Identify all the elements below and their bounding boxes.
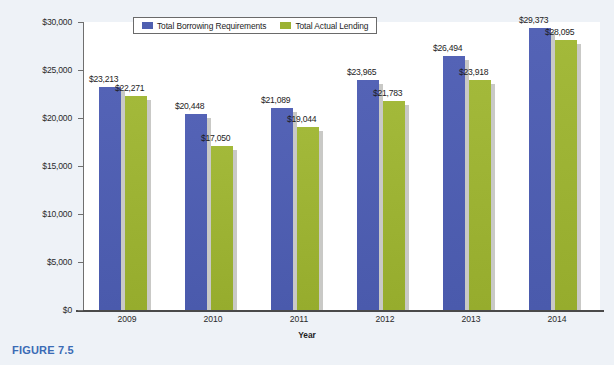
x-tick-label-2012: 2012: [350, 314, 420, 324]
bar-fill: [297, 127, 319, 310]
y-tick-label: $30,000: [12, 17, 72, 27]
y-tick-mark: [78, 22, 83, 23]
x-tick-label-2011: 2011: [264, 314, 334, 324]
bar-2009-borrowing: [99, 87, 125, 310]
y-tick-label: $20,000: [12, 113, 72, 123]
value-label-2012-lending: $21,783: [373, 88, 402, 98]
bar-fill: [99, 87, 121, 310]
legend-item-lending: Total Actual Lending: [280, 21, 368, 31]
bar-2012-borrowing: [357, 80, 383, 310]
value-label-2013-borrowing: $26,494: [433, 43, 462, 53]
legend-label: Total Actual Lending: [295, 21, 368, 31]
bar-2013-borrowing: [443, 56, 469, 310]
bar-2013-lending: [469, 80, 495, 310]
bar-shadow: [405, 105, 409, 310]
x-axis-title: Year: [0, 330, 614, 340]
bar-shadow: [147, 100, 151, 310]
bar-2010-lending: [211, 146, 237, 310]
x-tick-label-2014: 2014: [522, 314, 592, 324]
chart-legend: Total Borrowing RequirementsTotal Actual…: [133, 17, 377, 34]
y-tick-mark: [78, 214, 83, 215]
y-tick-mark: [78, 310, 83, 311]
value-label-2011-lending: $19,044: [287, 114, 316, 124]
value-label-2014-borrowing: $29,373: [519, 15, 548, 25]
value-label-2009-borrowing: $23,213: [89, 74, 118, 84]
figure-caption: FIGURE 7.5: [12, 344, 74, 356]
y-tick-label: $5,000: [12, 257, 72, 267]
bar-shadow: [491, 84, 495, 310]
value-label-2012-borrowing: $23,965: [347, 67, 376, 77]
legend-swatch-icon: [142, 22, 153, 29]
y-tick-label: $15,000: [12, 161, 72, 171]
value-label-2014-lending: $28,095: [545, 27, 574, 37]
legend-item-borrowing: Total Borrowing Requirements: [142, 21, 266, 31]
bar-2012-lending: [383, 101, 409, 310]
x-tick-label-2013: 2013: [436, 314, 506, 324]
plot-area: [84, 22, 600, 310]
bar-fill: [357, 80, 379, 310]
bar-fill: [443, 56, 465, 310]
bar-2011-borrowing: [271, 108, 297, 310]
bar-shadow: [233, 150, 237, 310]
legend-label: Total Borrowing Requirements: [157, 21, 266, 31]
bar-fill: [125, 96, 147, 310]
y-tick-label: $0: [12, 305, 72, 315]
bar-fill: [469, 80, 491, 310]
bar-fill: [383, 101, 405, 310]
figure-container: Borrowing Requirements and Actual Lendin…: [0, 0, 614, 365]
x-tick-label-2010: 2010: [178, 314, 248, 324]
x-tick-label-2009: 2009: [92, 314, 162, 324]
y-tick-mark: [78, 118, 83, 119]
bar-fill: [271, 108, 293, 310]
x-axis-line: [76, 310, 604, 312]
bar-fill: [211, 146, 233, 310]
bar-fill: [529, 28, 551, 310]
bar-shadow: [319, 131, 323, 310]
legend-swatch-icon: [280, 22, 291, 29]
y-tick-mark: [78, 262, 83, 263]
value-label-2010-borrowing: $20,448: [175, 101, 204, 111]
value-label-2010-lending: $17,050: [201, 133, 230, 143]
value-label-2009-lending: $22,271: [115, 83, 144, 93]
bar-2011-lending: [297, 127, 323, 310]
value-label-2011-borrowing: $21,089: [261, 95, 290, 105]
y-tick-mark: [78, 70, 83, 71]
bar-2014-lending: [555, 40, 581, 310]
bar-2014-borrowing: [529, 28, 555, 310]
bar-2009-lending: [125, 96, 151, 310]
y-tick-mark: [78, 166, 83, 167]
y-tick-label: $25,000: [12, 65, 72, 75]
value-label-2013-lending: $23,918: [459, 67, 488, 77]
y-tick-label: $10,000: [12, 209, 72, 219]
bar-fill: [555, 40, 577, 310]
bar-shadow: [577, 44, 581, 310]
